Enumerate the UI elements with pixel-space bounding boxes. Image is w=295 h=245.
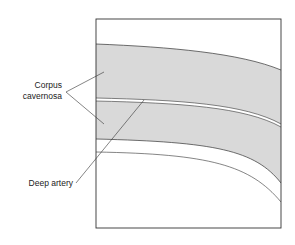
label-corpus-line2: cavernosa bbox=[23, 91, 62, 101]
label-corpus-line1: Corpus bbox=[35, 80, 62, 90]
anatomy-diagram: Corpus cavernosa Deep artery bbox=[0, 0, 295, 245]
label-deep-artery: Deep artery bbox=[29, 178, 74, 188]
